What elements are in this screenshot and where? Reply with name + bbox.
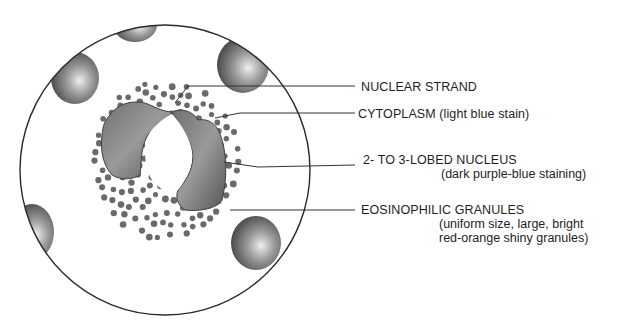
leader-cytoplasm bbox=[215, 113, 355, 118]
label-nucleus-note: (dark purple-blue staining) bbox=[441, 167, 586, 182]
leader-nucleus bbox=[224, 162, 355, 167]
label-granules-note-line1: (uniform size, large, bright bbox=[439, 217, 584, 232]
label-nucleus: 2- TO 3-LOBED NUCLEUS bbox=[363, 153, 517, 168]
label-cytoplasm: CYTOPLASM (light blue stain) bbox=[358, 107, 529, 122]
label-nuclear-strand: NUCLEAR STRAND bbox=[361, 80, 477, 95]
leader-nuclear-strand bbox=[175, 86, 355, 103]
label-granules-note-line2: red-orange shiny granules) bbox=[439, 231, 588, 246]
label-granules: EOSINOPHILIC GRANULES bbox=[361, 203, 524, 218]
